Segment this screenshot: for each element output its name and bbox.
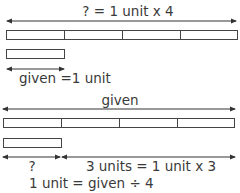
top-whole-bar [7, 31, 238, 40]
top-unit-label: given =1 unit [19, 70, 111, 86]
top-model: ? = 1 unit x 4 given =1 unit [7, 3, 238, 86]
formula-label: 1 unit = given ÷ 4 [29, 175, 154, 191]
bottom-unit-bar [4, 139, 62, 148]
rest-label: 3 units = 1 unit x 3 [86, 158, 216, 174]
bottom-whole-bar [4, 119, 235, 128]
bar-model-diagram: ? = 1 unit x 4 given =1 unit given ? 3 u… [0, 0, 240, 193]
unknown-label: ? [28, 158, 35, 174]
bottom-model: given ? 3 units = 1 unit x 3 1 unit = gi… [3, 92, 235, 191]
bottom-total-label: given [101, 92, 138, 108]
top-unit-bar [7, 50, 65, 59]
top-total-label: ? = 1 unit x 4 [82, 3, 173, 19]
